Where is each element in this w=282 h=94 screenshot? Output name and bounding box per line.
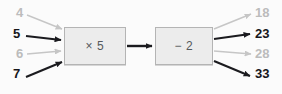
output-arrow-18 xyxy=(214,14,251,29)
input-arrow-6 xyxy=(27,51,61,54)
output-value-23: 23 xyxy=(255,27,269,40)
operation-label-multiply: × 5 xyxy=(86,39,105,53)
input-value-7: 7 xyxy=(13,67,20,80)
operation-box-multiply[interactable]: × 5 xyxy=(64,27,126,65)
input-arrow-4 xyxy=(27,15,62,29)
arrow-layer xyxy=(0,0,282,94)
output-value-18: 18 xyxy=(255,6,269,19)
input-arrow-5 xyxy=(26,36,61,40)
output-value-33: 33 xyxy=(255,67,269,80)
input-value-4: 4 xyxy=(16,6,23,19)
output-value-28: 28 xyxy=(255,47,269,60)
input-arrow-7 xyxy=(26,62,62,77)
function-machine-diagram: × 5 − 2 4 5 6 7 18 23 28 33 xyxy=(0,0,282,94)
input-value-6: 6 xyxy=(16,47,23,60)
input-value-5: 5 xyxy=(13,27,20,40)
output-arrow-28 xyxy=(214,51,251,54)
output-arrow-23 xyxy=(214,34,250,39)
operation-label-subtract: − 2 xyxy=(175,39,194,53)
output-arrow-33 xyxy=(214,61,250,76)
operation-box-subtract[interactable]: − 2 xyxy=(155,27,213,65)
